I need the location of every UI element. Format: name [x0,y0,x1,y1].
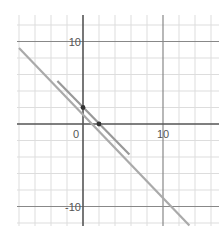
y-tick-label: -10 [65,201,81,213]
coordinate-plane: 01010-10 [0,0,224,239]
x-tick-label: 10 [157,128,169,140]
y-tick-label: 10 [69,36,81,48]
axes [17,15,219,226]
data-point [97,122,102,127]
data-point [81,105,86,110]
grid-major-lines [17,15,219,226]
short-segment [57,81,129,154]
grid-minor-lines [17,15,219,226]
x-tick-label: 0 [73,128,79,140]
